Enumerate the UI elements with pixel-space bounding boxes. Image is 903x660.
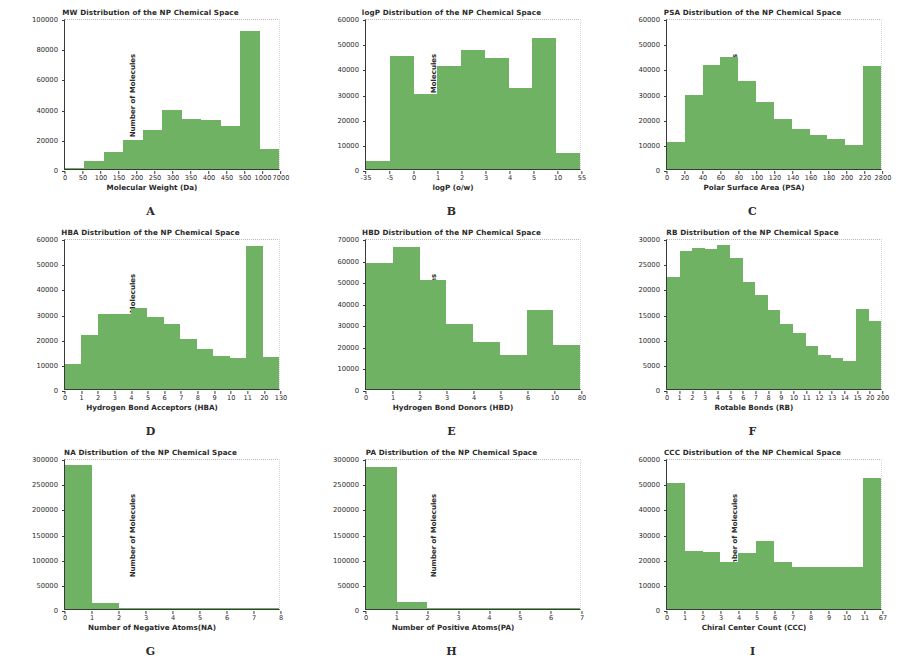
x-tick-label: 0 xyxy=(364,614,368,622)
x-tick-label: 6 xyxy=(741,394,745,402)
y-tick-label: 10000 xyxy=(638,582,663,590)
bars-i xyxy=(667,460,881,609)
x-tick-label: 1 xyxy=(395,614,399,622)
histogram-bar xyxy=(461,50,485,169)
y-tick-label: 20000 xyxy=(638,286,663,294)
x-tick-label: 400 xyxy=(203,174,216,182)
bars-f xyxy=(667,240,881,389)
histogram-bar xyxy=(92,603,119,609)
histogram-bar xyxy=(845,145,863,169)
histogram-bar xyxy=(667,277,680,389)
x-tick-label: 55 xyxy=(578,174,586,182)
x-axis-ticks-g: 012345678 xyxy=(65,611,279,623)
x-tick-label: 6 xyxy=(773,614,777,622)
y-tick-label: 60000 xyxy=(337,16,362,24)
x-tick-label: 150 xyxy=(113,174,126,182)
x-axis-ticks-a: 05010015020025030035040045050010007000 xyxy=(65,171,279,183)
y-tick-label: 20000 xyxy=(337,344,362,352)
y-tick-label: 25000 xyxy=(638,261,663,269)
x-axis-label-f: Rotable Bonds (RB) xyxy=(607,403,901,412)
x-tick-label: 0 xyxy=(63,394,67,402)
histogram-bar xyxy=(768,310,781,389)
axes-i: Number of Molecules010000200003000040000… xyxy=(666,459,882,610)
histogram-bar xyxy=(827,139,845,169)
x-axis-label-h: Number of Positive Atoms(PA) xyxy=(306,623,600,632)
y-tick-label: 80000 xyxy=(36,46,61,54)
x-tick-label: 5 xyxy=(198,614,202,622)
y-tick-label: 15000 xyxy=(638,312,663,320)
panel-letter-b: B xyxy=(301,205,602,218)
histogram-bar xyxy=(252,608,279,609)
panel-letter-g: G xyxy=(0,645,301,658)
histogram-bar xyxy=(792,129,810,169)
panel-g: NA Distribution of the NP Chemical Space… xyxy=(0,440,301,660)
histogram-bar xyxy=(145,608,172,609)
x-tick-label: 50 xyxy=(79,174,87,182)
histogram-bar xyxy=(680,251,693,389)
y-tick-label: 20000 xyxy=(638,117,663,125)
histogram-bar xyxy=(743,282,756,389)
x-tick-label: 3 xyxy=(456,614,460,622)
x-axis-label-c: Polar Surface Area (PSA) xyxy=(607,183,901,192)
histogram-bar xyxy=(172,608,199,609)
histogram-bar xyxy=(692,248,705,389)
y-tick-label: 0 xyxy=(54,607,61,615)
y-tick-label: 20000 xyxy=(337,117,362,125)
histogram-bar xyxy=(738,553,756,609)
x-tick-label: 2 xyxy=(96,394,100,402)
bars-h xyxy=(366,460,580,609)
y-tick-label: 50000 xyxy=(36,582,61,590)
x-tick-label: 130 xyxy=(275,394,288,402)
x-tick-label: 5 xyxy=(755,614,759,622)
panel-letter-e: E xyxy=(301,425,602,438)
x-tick-label: 7 xyxy=(580,614,584,622)
y-tick-label: 60000 xyxy=(638,16,663,24)
panel-b: logP Distribution of the NP Chemical Spa… xyxy=(301,0,602,220)
histogram-bar xyxy=(458,608,489,609)
bars-b xyxy=(366,20,580,169)
x-tick-label: 2 xyxy=(460,174,464,182)
x-tick-label: -5 xyxy=(387,174,394,182)
histogram-bar xyxy=(226,608,253,609)
x-tick-label: 0 xyxy=(665,614,669,622)
panel-d: HBA Distribution of the NP Chemical Spac… xyxy=(0,220,301,440)
histogram-bar xyxy=(199,608,226,609)
y-tick-label: 100000 xyxy=(32,557,61,565)
histogram-bar xyxy=(65,465,92,609)
x-tick-label: 67 xyxy=(879,614,887,622)
histogram-bar xyxy=(755,295,768,389)
histogram-bar xyxy=(263,357,279,389)
bars-a xyxy=(65,20,279,169)
y-tick-label: 300000 xyxy=(333,456,362,464)
x-tick-label: 13 xyxy=(828,394,836,402)
histogram-bar xyxy=(863,478,881,609)
y-tick-label: 20000 xyxy=(36,337,61,345)
histogram-bar xyxy=(104,152,123,169)
figure-panel-grid: MW Distribution of the NP Chemical Space… xyxy=(0,0,903,660)
x-tick-label: 11 xyxy=(861,614,869,622)
x-tick-label: 200 xyxy=(841,174,854,182)
axes-f: Number of Molecules050001000015000200002… xyxy=(666,239,882,390)
x-tick-label: 3 xyxy=(445,394,449,402)
x-tick-label: 6 xyxy=(225,614,229,622)
histogram-bar xyxy=(856,309,869,389)
panel-letter-d: D xyxy=(0,425,301,438)
x-tick-label: 0 xyxy=(63,614,67,622)
x-axis-ticks-f: 012345678910111213141520200 xyxy=(667,391,881,403)
x-tick-label: 1 xyxy=(90,614,94,622)
histogram-bar xyxy=(366,161,390,169)
y-tick-label: 10000 xyxy=(337,142,362,150)
x-tick-label: 2 xyxy=(117,614,121,622)
x-tick-label: 4 xyxy=(171,614,175,622)
histogram-bar xyxy=(532,38,556,169)
x-tick-label: 2 xyxy=(701,614,705,622)
histogram-bar xyxy=(843,361,856,389)
y-tick-label: 40000 xyxy=(638,506,663,514)
x-tick-label: 0 xyxy=(665,394,669,402)
x-tick-label: 7 xyxy=(754,394,758,402)
x-tick-label: 10 xyxy=(227,394,235,402)
x-tick-label: 180 xyxy=(823,174,836,182)
histogram-bar xyxy=(123,140,142,169)
x-tick-label: 100 xyxy=(95,174,108,182)
histogram-bar xyxy=(366,263,393,389)
